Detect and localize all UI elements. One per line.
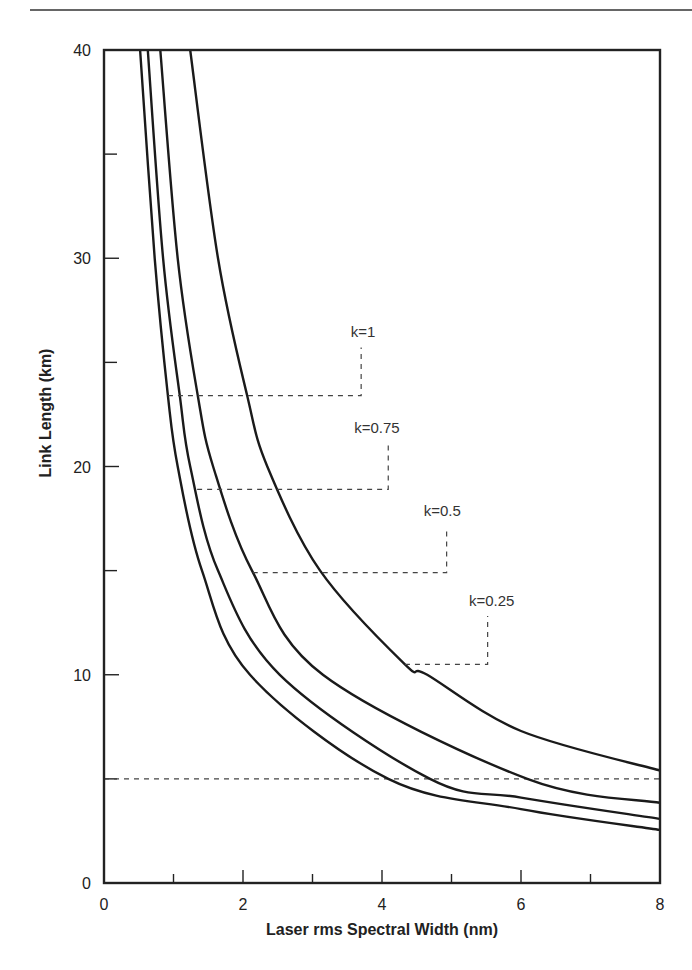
chart-canvas: k=1k=0.75k=0.5k=0.25 02468010203040 Lase… — [0, 0, 692, 970]
annotation-leader-line — [405, 616, 488, 664]
y-axis-title: Link Length (km) — [37, 349, 54, 478]
x-tick-label: 8 — [656, 896, 665, 913]
series-label: k=0.25 — [469, 592, 514, 609]
x-tick-label: 4 — [378, 896, 387, 913]
series-curve-k-0-5 — [148, 50, 660, 819]
annotation-leader-line — [253, 526, 447, 572]
y-tick-label: 40 — [73, 42, 91, 59]
y-tick-label: 20 — [73, 459, 91, 476]
series-label: k=0.5 — [424, 502, 461, 519]
axis-ticks — [104, 154, 591, 883]
y-tick-label: 10 — [73, 667, 91, 684]
tick-labels: 02468010203040 — [73, 42, 664, 913]
series-label: k=1 — [351, 323, 376, 340]
series-curves — [140, 50, 660, 830]
x-axis-title: Laser rms Spectral Width (nm) — [266, 921, 498, 938]
series-annotations: k=1k=0.75k=0.5k=0.25 — [168, 323, 514, 664]
series-curve-k-1 — [190, 50, 660, 771]
series-label: k=0.75 — [354, 419, 399, 436]
plot-frame — [104, 50, 660, 883]
annotation-leader-line — [197, 443, 388, 489]
series-curve-k-0-25 — [140, 50, 660, 830]
x-tick-label: 6 — [517, 896, 526, 913]
x-tick-label: 0 — [100, 896, 109, 913]
y-tick-label: 30 — [73, 250, 91, 267]
series-curve-k-0-75 — [160, 50, 660, 803]
x-tick-label: 2 — [239, 896, 248, 913]
y-tick-label: 0 — [82, 875, 91, 892]
